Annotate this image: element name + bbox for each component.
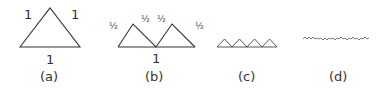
caption-a: (a) [40,70,58,83]
wiggle-d [303,37,369,40]
label-b-base: 1 [152,52,160,65]
label-a-base: 1 [46,53,54,66]
caption-d: (d) [329,70,347,83]
caption-c: (c) [238,70,255,83]
label-b-side-3: ½ [157,15,166,24]
triangles-b [118,24,195,47]
triangles-c [217,39,277,47]
label-b-side-1: ½ [109,22,118,31]
caption-b: (b) [145,70,163,83]
label-a-left-side: 1 [24,8,32,21]
label-b-side-2: ½ [141,15,150,24]
label-b-side-4: ½ [195,22,204,31]
label-a-right-side: 1 [71,8,79,21]
